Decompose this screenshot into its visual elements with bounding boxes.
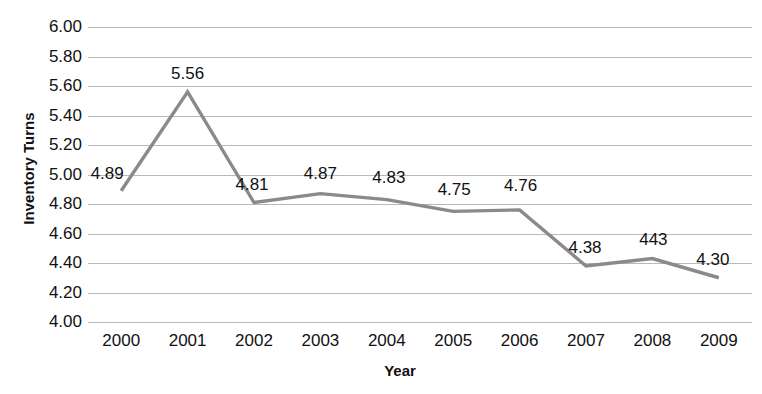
- y-axis-tick-label: 5.00: [24, 166, 82, 183]
- y-axis-tick-label: 4.20: [24, 284, 82, 301]
- y-axis-tick-label: 4.40: [24, 254, 82, 271]
- y-axis-tick-label: 4.00: [24, 313, 82, 330]
- y-axis-tick-label: 5.20: [24, 136, 82, 153]
- gridline: [88, 322, 752, 323]
- x-axis-tick-label: 2001: [169, 332, 207, 349]
- y-axis-tick-label: 4.60: [24, 225, 82, 242]
- data-point-label: 4.87: [304, 165, 337, 182]
- x-axis-tick-label: 2005: [434, 332, 472, 349]
- data-point-label: 5.56: [171, 65, 204, 82]
- data-point-label: 4.81: [235, 176, 268, 193]
- x-axis-tick-label: 2002: [235, 332, 273, 349]
- data-point-label: 4.89: [91, 165, 124, 182]
- x-axis-tick-label: 2000: [102, 332, 140, 349]
- y-axis-tick-label: 5.60: [24, 77, 82, 94]
- y-axis-tick-labels: 6.005.805.605.405.205.004.804.604.404.20…: [20, 0, 82, 394]
- data-point-label: 4.38: [568, 239, 601, 256]
- data-point-label: 4.30: [696, 251, 729, 268]
- plot-area: 4.895.564.814.874.834.754.764.384434.30: [88, 27, 752, 322]
- x-axis-tick-label: 2003: [301, 332, 339, 349]
- data-point-label: 4.76: [504, 177, 537, 194]
- x-axis-tick-label: 2006: [501, 332, 539, 349]
- y-axis-tick-label: 4.80: [24, 195, 82, 212]
- x-axis-title: Year: [88, 362, 712, 379]
- x-axis-tick-label: 2007: [567, 332, 605, 349]
- data-point-label: 4.83: [372, 169, 405, 186]
- x-axis-tick-label: 2004: [368, 332, 406, 349]
- x-axis-tick-label: 2008: [633, 332, 671, 349]
- data-point-label: 443: [639, 231, 667, 248]
- x-axis-tick-label: 2009: [700, 332, 738, 349]
- y-axis-tick-label: 5.80: [24, 48, 82, 65]
- x-axis-tick-labels: 2000200120022003200420052006200720082009: [88, 332, 752, 358]
- data-point-label: 4.75: [438, 181, 471, 198]
- y-axis-tick-label: 6.00: [24, 18, 82, 35]
- line-chart: Inventory Turns 6.005.805.605.405.205.00…: [0, 0, 762, 394]
- y-axis-tick-label: 5.40: [24, 107, 82, 124]
